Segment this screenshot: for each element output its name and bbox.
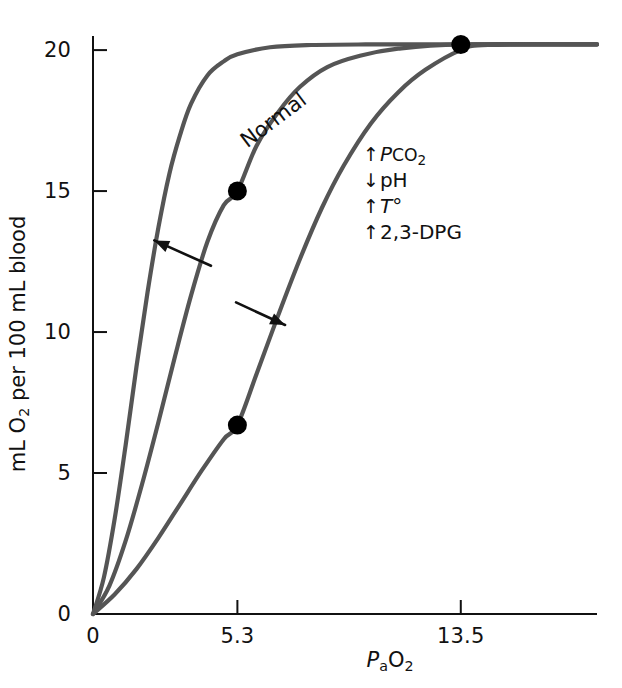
pco2-sub: 2 bbox=[418, 152, 427, 168]
y-axis-title-prefix: mL O bbox=[6, 417, 30, 472]
ph-text: pH bbox=[380, 168, 408, 192]
shift-factor-ph: ↓pH bbox=[363, 167, 462, 193]
normal-venous-point bbox=[228, 182, 247, 201]
temperature-t: T bbox=[380, 194, 392, 218]
arterial-point bbox=[451, 35, 470, 54]
right-shift-venous-point bbox=[228, 416, 247, 435]
y-axis-title-suffix: per 100 mL blood bbox=[6, 216, 30, 408]
oxygen-dissociation-curve-figure: 05.313.505101520 mL O2 per 100 mL blood … bbox=[0, 0, 622, 688]
dpg-text: 2,3-DPG bbox=[380, 220, 462, 244]
y-tick-label-0: 0 bbox=[0, 602, 71, 626]
y-axis-title-subscript: 2 bbox=[16, 408, 32, 417]
shift-factor-dpg: ↑2,3-DPG bbox=[363, 219, 462, 245]
y-tick-label-3: 15 bbox=[0, 179, 71, 203]
pco2-co: CO bbox=[392, 145, 418, 165]
shift-arrows bbox=[154, 240, 285, 325]
up-arrow-icon-2: ↑ bbox=[363, 195, 379, 217]
up-arrow-icon: ↑ bbox=[363, 143, 379, 165]
curve-2 bbox=[93, 44, 597, 614]
x-tick-label-1: 5.3 bbox=[220, 624, 254, 648]
curve-1 bbox=[93, 44, 597, 614]
shift-factor-temperature: ↑T° bbox=[363, 193, 462, 219]
dissociation-curves bbox=[93, 44, 597, 614]
x-axis-title-sub-2: 2 bbox=[404, 658, 413, 674]
pco2-p: P bbox=[380, 142, 392, 166]
chart-canvas bbox=[0, 0, 622, 688]
y-axis-title: mL O2 per 100 mL blood bbox=[6, 216, 30, 472]
axes-group bbox=[93, 36, 597, 614]
shift-factors-annotation: ↑PCO2 ↓pH ↑T° ↑2,3-DPG bbox=[363, 141, 462, 245]
x-axis-title: PaO2 bbox=[366, 648, 413, 672]
shift-factor-pco2: ↑PCO2 bbox=[363, 141, 462, 167]
x-axis-title-p: P bbox=[366, 648, 379, 672]
x-axis-title-o: O bbox=[388, 648, 405, 672]
degree-symbol: ° bbox=[392, 194, 402, 218]
x-axis-title-sub-a: a bbox=[379, 658, 388, 674]
x-tick-label-2: 13.5 bbox=[437, 624, 485, 648]
x-tick-label-0: 0 bbox=[86, 624, 100, 648]
y-axis-ticks bbox=[93, 50, 107, 473]
x-axis-ticks bbox=[237, 600, 460, 614]
curve-0 bbox=[93, 44, 597, 614]
up-arrow-icon-3: ↑ bbox=[363, 221, 379, 243]
down-arrow-icon: ↓ bbox=[363, 169, 379, 191]
y-tick-label-4: 20 bbox=[0, 38, 71, 62]
